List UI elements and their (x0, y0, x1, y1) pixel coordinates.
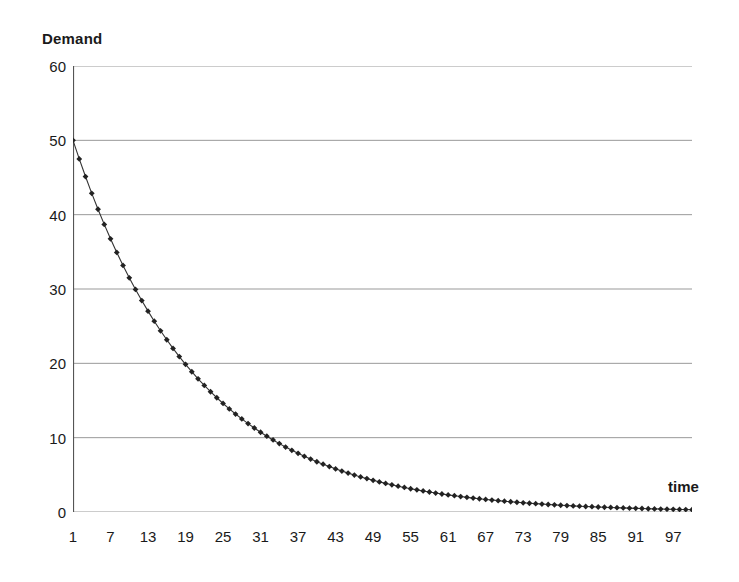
x-tick-label: 31 (241, 529, 281, 544)
x-tick-label: 19 (166, 529, 206, 544)
x-tick-label: 85 (578, 529, 618, 544)
x-tick-label: 97 (653, 529, 693, 544)
x-tick-label: 37 (278, 529, 318, 544)
demand-decay-chart: Demand time 0102030405060 17131925313743… (0, 0, 739, 582)
x-tick-label: 1 (53, 529, 93, 544)
x-tick-label: 43 (316, 529, 356, 544)
x-tick-label: 49 (353, 529, 393, 544)
x-tick-label: 13 (128, 529, 168, 544)
x-tick-label: 55 (391, 529, 431, 544)
x-tick-label: 7 (91, 529, 131, 544)
x-tick-label: 25 (203, 529, 243, 544)
x-tick-label: 91 (616, 529, 656, 544)
x-tick-label: 79 (541, 529, 581, 544)
x-tick-label: 73 (503, 529, 543, 544)
x-axis-tick-labels: 17131925313743495561677379859197 (0, 0, 739, 582)
x-tick-label: 67 (466, 529, 506, 544)
x-tick-label: 61 (428, 529, 468, 544)
